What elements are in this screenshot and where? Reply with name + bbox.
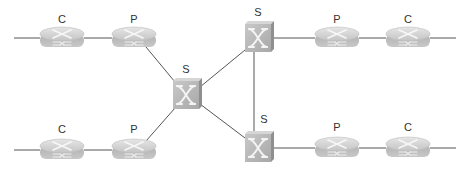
router-c2: C	[40, 123, 84, 159]
links	[14, 38, 456, 150]
router-c4: C	[386, 121, 430, 157]
router-icon	[315, 137, 359, 157]
switch-s2: S	[245, 6, 274, 52]
node-label: S	[182, 63, 189, 75]
node-label: S	[254, 6, 261, 18]
link-p1-s1	[146, 47, 175, 82]
router-p3: P	[315, 13, 359, 47]
node-label: P	[130, 13, 137, 25]
switch-icon	[245, 131, 274, 162]
router-icon	[386, 27, 430, 47]
router-p1: P	[112, 13, 156, 47]
node-label: P	[130, 123, 137, 135]
node-label: P	[333, 121, 340, 133]
switch-s1: S	[173, 63, 202, 109]
router-icon	[315, 27, 359, 47]
router-p2: P	[112, 123, 156, 159]
node-label: C	[404, 13, 412, 25]
switch-icon	[245, 21, 274, 52]
link-s1-s3	[200, 104, 245, 138]
router-icon	[112, 139, 156, 159]
node-label: C	[58, 13, 66, 25]
router-c3: C	[386, 13, 430, 47]
router-icon	[40, 27, 84, 47]
node-label: P	[333, 13, 340, 25]
link-s1-s2	[200, 50, 245, 87]
link-p2-s1	[146, 108, 175, 141]
router-icon	[112, 27, 156, 47]
router-c1: C	[40, 13, 84, 47]
switch-icon	[173, 78, 202, 109]
switch-s3: S	[245, 113, 274, 162]
router-icon	[40, 139, 84, 159]
node-label: S	[260, 113, 267, 125]
router-icon	[386, 137, 430, 157]
network-diagram: C P C P S S S P C P C	[0, 0, 470, 171]
node-label: C	[404, 121, 412, 133]
node-label: C	[58, 123, 66, 135]
router-p4: P	[315, 121, 359, 157]
